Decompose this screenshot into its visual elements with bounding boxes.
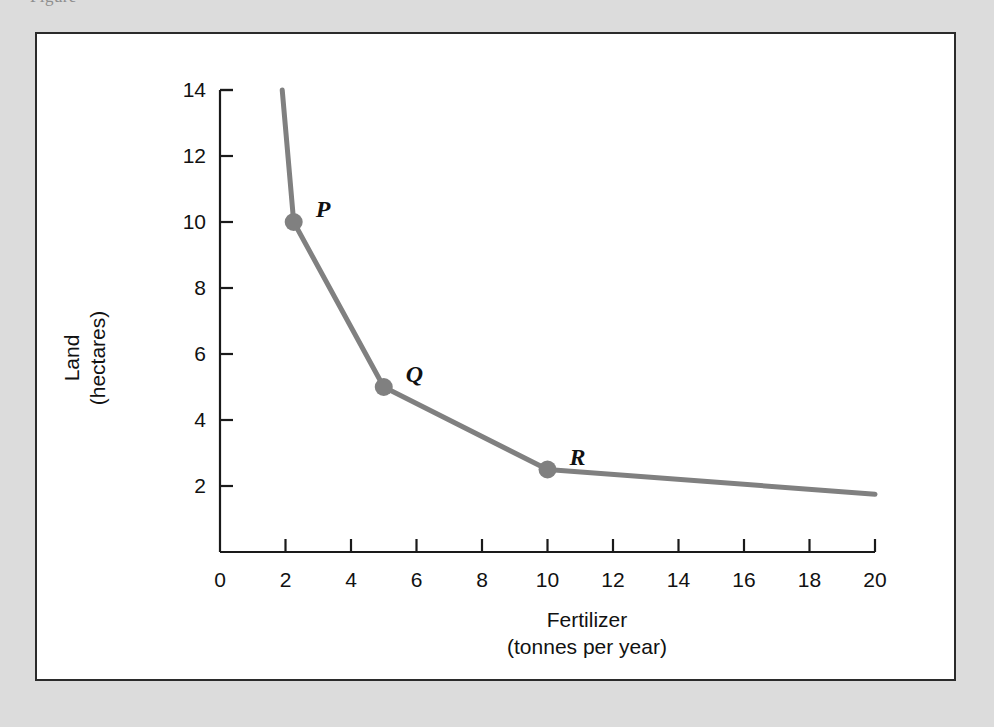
data-point-label-Q: Q: [406, 361, 423, 388]
x-tick-label-8: 8: [476, 568, 488, 592]
y-tick-label-14: 14: [183, 78, 206, 102]
x-tick-label-20: 20: [863, 568, 886, 592]
y-axis-title-units: (hectares): [86, 311, 109, 406]
x-axis-title-units: (tonnes per year): [507, 635, 667, 658]
x-axis-title: Fertilizer (tonnes per year): [407, 606, 767, 661]
x-tick-label-12: 12: [601, 568, 624, 592]
data-point-label-R: R: [570, 444, 586, 471]
x-tick-label-16: 16: [732, 568, 755, 592]
data-point-P[interactable]: [285, 213, 303, 231]
y-axis-title-main: Land: [60, 335, 83, 382]
x-tick-label-14: 14: [667, 568, 690, 592]
x-tick-label-4: 4: [345, 568, 357, 592]
x-tick-label-18: 18: [798, 568, 821, 592]
cut-off-caption: Figure: [30, 0, 77, 7]
y-tick-label-6: 6: [194, 342, 206, 366]
x-tick-label-6: 6: [411, 568, 423, 592]
x-tick-label-2: 2: [280, 568, 292, 592]
y-tick-label-12: 12: [183, 144, 206, 168]
data-point-Q[interactable]: [375, 378, 393, 396]
data-point-label-P: P: [316, 196, 331, 223]
series-line-isoquant: [282, 90, 875, 494]
y-axis-title: Land (hectares): [59, 311, 112, 406]
y-tick-label-8: 8: [194, 276, 206, 300]
chart-plot-area: Land (hectares) Fertilizer (tonnes per y…: [37, 34, 954, 679]
x-axis-title-main: Fertilizer: [547, 608, 628, 631]
page-top-cut-strip: Figure: [0, 0, 994, 12]
data-point-R[interactable]: [539, 461, 557, 479]
x-tick-label-0: 0: [214, 568, 226, 592]
y-tick-label-2: 2: [194, 474, 206, 498]
figure-panel: Land (hectares) Fertilizer (tonnes per y…: [35, 32, 956, 681]
y-tick-label-4: 4: [194, 408, 206, 432]
y-tick-label-10: 10: [183, 210, 206, 234]
x-tick-label-10: 10: [536, 568, 559, 592]
